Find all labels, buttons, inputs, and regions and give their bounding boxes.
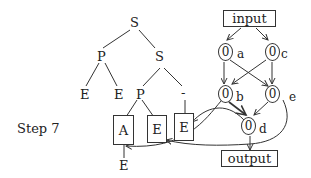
graph-node-b-label: b xyxy=(236,91,244,103)
output-box: output xyxy=(221,150,278,167)
tree-node-p-left: P xyxy=(97,50,106,63)
tree-node-dash: - xyxy=(181,86,185,99)
tree-box-a: A xyxy=(113,115,134,145)
step-label: Step 7 xyxy=(17,122,60,135)
graph-node-c: 0 xyxy=(265,43,280,61)
graph-node-d-label: d xyxy=(259,123,267,135)
graph-node-b: 0 xyxy=(218,85,233,103)
tree-leaf-e1: E xyxy=(80,88,90,101)
graph-node-a: 0 xyxy=(218,43,233,61)
tree-node-p-inner: P xyxy=(136,88,145,101)
tree-leaf-below-a: E xyxy=(119,159,129,172)
graph-node-c-label: c xyxy=(281,48,288,60)
tree-root-s: S xyxy=(130,16,139,29)
tree-leaf-e2: E xyxy=(114,88,124,101)
tree-box-e1: E xyxy=(147,115,167,143)
graph-node-e-label: e xyxy=(289,91,296,103)
input-box: input xyxy=(223,10,276,27)
tree-node-s-right: S xyxy=(155,50,164,63)
graph-node-e: 0 xyxy=(265,85,280,103)
graph-node-d: 0 xyxy=(241,117,256,135)
graph-node-a-label: a xyxy=(237,48,244,60)
tree-box-e2: E xyxy=(174,113,194,141)
